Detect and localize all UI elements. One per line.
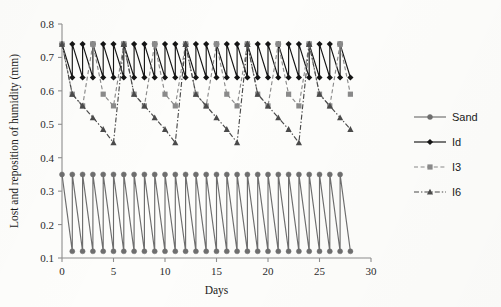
data-point [224, 249, 229, 254]
data-point [286, 74, 292, 80]
data-point [152, 249, 157, 254]
data-point [80, 74, 86, 80]
data-point [276, 249, 281, 254]
data-point [266, 172, 271, 177]
data-point [213, 74, 219, 80]
data-point [90, 41, 95, 46]
data-point [316, 74, 322, 80]
data-point [317, 249, 322, 254]
data-point [348, 249, 353, 254]
y-tick-label: 0.8 [40, 18, 54, 30]
data-point [265, 41, 271, 47]
data-point [204, 249, 209, 254]
y-tick-label: 0.1 [40, 252, 54, 264]
y-axis-ticks: 0.10.20.30.40.50.60.70.8 [40, 18, 62, 264]
data-point [163, 249, 168, 254]
data-point [90, 172, 95, 177]
data-point [327, 249, 332, 254]
data-point [163, 172, 168, 177]
legend-label-id: Id [452, 136, 461, 148]
data-point [193, 172, 198, 177]
data-point [131, 74, 137, 80]
data-point [152, 74, 158, 80]
data-point [162, 74, 168, 80]
x-tick-label: 30 [366, 265, 378, 277]
data-point [142, 249, 147, 254]
data-point [172, 74, 178, 80]
data-point [142, 172, 147, 177]
y-tick-label: 0.5 [40, 118, 54, 130]
data-point [296, 249, 301, 254]
data-point [90, 249, 95, 254]
x-tick-label: 0 [59, 265, 65, 277]
data-point [100, 74, 106, 80]
data-point [141, 41, 147, 47]
data-point [234, 74, 240, 80]
data-point [111, 249, 116, 254]
data-point [265, 74, 271, 80]
legend-marker-id [427, 139, 433, 145]
data-point [255, 249, 260, 254]
data-point [193, 249, 198, 254]
data-point [244, 74, 250, 80]
data-point [172, 41, 178, 47]
data-point [100, 41, 106, 47]
data-point [327, 41, 333, 47]
x-tick-label: 5 [111, 265, 117, 277]
data-point [327, 172, 332, 177]
data-point [121, 172, 126, 177]
data-point [286, 92, 291, 97]
data-point [152, 41, 157, 46]
series-sand [60, 172, 353, 254]
y-tick-label: 0.2 [40, 219, 54, 231]
data-point [338, 249, 343, 254]
data-point [245, 172, 250, 177]
data-point [327, 74, 333, 80]
data-point [173, 103, 178, 108]
data-point [307, 172, 312, 177]
data-point [338, 41, 343, 46]
legend-marker-i3 [427, 164, 432, 169]
data-point [338, 172, 343, 177]
data-point [162, 92, 167, 97]
data-point [224, 172, 229, 177]
data-point [286, 41, 292, 47]
data-point [286, 249, 291, 254]
data-point [111, 172, 116, 177]
data-point [69, 74, 75, 80]
data-point [296, 41, 302, 47]
x-tick-label: 10 [160, 265, 172, 277]
data-point [276, 172, 281, 177]
data-point [193, 74, 199, 80]
data-point [275, 74, 281, 80]
data-point [214, 41, 219, 46]
data-point [111, 103, 116, 108]
data-point [348, 92, 353, 97]
data-point [296, 103, 301, 108]
series-group [59, 41, 354, 254]
x-tick-label: 15 [211, 265, 223, 277]
data-point [337, 114, 343, 120]
legend-label-i3: I3 [452, 161, 461, 173]
data-point [80, 249, 85, 254]
data-point [214, 172, 219, 177]
data-point [70, 172, 75, 177]
data-point [173, 172, 178, 177]
data-point [80, 41, 86, 47]
data-point [286, 126, 292, 132]
data-point [132, 172, 137, 177]
data-point [224, 74, 230, 80]
x-tick-label: 20 [263, 265, 275, 277]
data-point [286, 172, 291, 177]
data-point [234, 139, 240, 145]
data-point [162, 41, 168, 47]
legend-label-i6: I6 [452, 186, 461, 198]
data-point [296, 74, 302, 80]
data-point [266, 249, 271, 254]
chart-container: 0.10.20.30.40.50.60.70.8 051015202530 Lo… [0, 0, 501, 307]
data-point [307, 249, 312, 254]
x-axis-title: Days [205, 284, 229, 297]
data-point [132, 249, 137, 254]
data-point [69, 41, 75, 47]
data-point [183, 172, 188, 177]
